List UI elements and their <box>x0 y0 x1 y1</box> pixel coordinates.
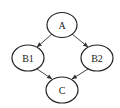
node-a: A <box>47 13 77 38</box>
node-c: C <box>46 77 78 103</box>
edge-a-b1 <box>37 34 52 47</box>
node-b1: B1 <box>12 45 44 71</box>
edge-b2-c <box>72 69 88 79</box>
arrow-icon <box>72 34 88 47</box>
edge-a-b2 <box>72 34 88 47</box>
node-label: B1 <box>22 53 34 64</box>
node-label: C <box>59 85 66 96</box>
edge-b1-c <box>37 69 52 79</box>
arrow-icon <box>37 69 52 79</box>
arrow-icon <box>72 69 88 79</box>
diagram-canvas: A B1 B2 C <box>0 0 120 108</box>
arrow-icon <box>37 34 52 47</box>
node-label: A <box>58 20 66 31</box>
node-b2: B2 <box>81 45 113 71</box>
node-label: B2 <box>91 53 103 64</box>
